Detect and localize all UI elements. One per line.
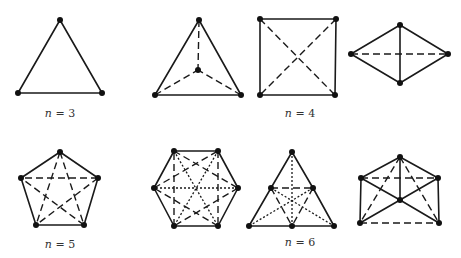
label-var: n [45, 107, 52, 120]
figure-diamond [348, 22, 451, 86]
vertex-dot [445, 51, 451, 57]
vertex-dot [33, 222, 39, 228]
vertex-dot [397, 197, 403, 203]
edge-solid [351, 25, 400, 54]
edge-dashed [21, 178, 84, 225]
label-var: n [285, 236, 292, 249]
vertex-dot [238, 92, 244, 98]
label-eq: = [292, 107, 308, 120]
vertex-dot [331, 223, 337, 229]
label-var: n [285, 107, 292, 120]
vertex-dot [289, 149, 295, 155]
edge-solid [60, 20, 102, 93]
vertex-dot [15, 90, 21, 96]
graph-diagram: n = 3 n = 4 n = 5 n = 6 [0, 0, 461, 258]
figure-hexagon-complete [151, 148, 241, 229]
figures-layer [15, 16, 451, 229]
label-n5: n = 5 [45, 238, 75, 251]
figure-pentagon-complete [18, 149, 101, 228]
vertex-dot [235, 185, 241, 191]
label-value: 4 [308, 107, 315, 120]
figure-triangle-subdivided [246, 149, 337, 229]
vertex-dot [18, 175, 24, 181]
vertex-dot [57, 149, 63, 155]
label-eq: = [52, 238, 68, 251]
vertex-dot [310, 185, 316, 191]
vertex-dot [215, 148, 221, 154]
edge-solid [335, 19, 336, 95]
vertex-dot [195, 67, 201, 73]
edge-solid [21, 178, 36, 225]
vertex-dot [257, 92, 263, 98]
edge-dashed [198, 20, 199, 70]
edge-solid [360, 178, 361, 223]
vertex-dot [333, 16, 339, 22]
vertex-dot [435, 175, 441, 181]
vertex-dot [196, 17, 202, 23]
vertex-dot [358, 175, 364, 181]
vertex-dot [332, 92, 338, 98]
edge-solid [360, 200, 400, 223]
vertex-dot [397, 22, 403, 28]
figure-triangle [15, 17, 105, 96]
edge-solid [271, 152, 292, 188]
edge-solid [249, 188, 271, 226]
vertex-dot [215, 223, 221, 229]
figure-square-with-diagonals [257, 16, 339, 98]
label-eq: = [292, 236, 308, 249]
vertex-dot [81, 222, 87, 228]
vertex-dot [171, 148, 177, 154]
edge-solid [351, 54, 400, 83]
edge-solid [18, 20, 60, 93]
edge-dashed [36, 152, 60, 225]
label-n6: n = 6 [285, 236, 315, 249]
vertex-dot [171, 223, 177, 229]
edge-dashed [60, 152, 84, 225]
edge-solid [84, 178, 98, 225]
edge-solid [400, 25, 448, 54]
edge-solid [154, 188, 174, 226]
vertex-dot [151, 185, 157, 191]
vertex-dot [268, 185, 274, 191]
edge-solid [155, 20, 199, 95]
label-n3: n = 3 [45, 107, 75, 120]
edge-solid [199, 20, 241, 95]
vertex-dot [397, 154, 403, 160]
edge-solid [292, 152, 313, 188]
edge-solid [400, 200, 439, 223]
figure-prism-with-apex [357, 154, 442, 226]
label-n4: n = 4 [285, 107, 315, 120]
labels-layer: n = 3 n = 4 n = 5 n = 6 [45, 107, 315, 251]
label-var: n [45, 238, 52, 251]
vertex-dot [57, 17, 63, 23]
vertex-dot [257, 16, 263, 22]
edge-solid [218, 151, 238, 188]
vertex-dot [357, 220, 363, 226]
edge-dashed [36, 178, 98, 225]
vertex-dot [99, 90, 105, 96]
edge-solid [400, 54, 448, 83]
edge-solid [21, 152, 60, 178]
label-value: 5 [68, 238, 75, 251]
edge-solid [438, 178, 439, 223]
label-value: 3 [68, 107, 75, 120]
edge-solid [60, 152, 98, 178]
label-value: 6 [308, 236, 315, 249]
vertex-dot [95, 175, 101, 181]
vertex-dot [397, 80, 403, 86]
figure-tetrahedron [152, 17, 244, 98]
vertex-dot [348, 51, 354, 57]
vertex-dot [436, 220, 442, 226]
vertex-dot [246, 223, 252, 229]
label-eq: = [52, 107, 68, 120]
vertex-dot [289, 223, 295, 229]
vertex-dot [152, 92, 158, 98]
